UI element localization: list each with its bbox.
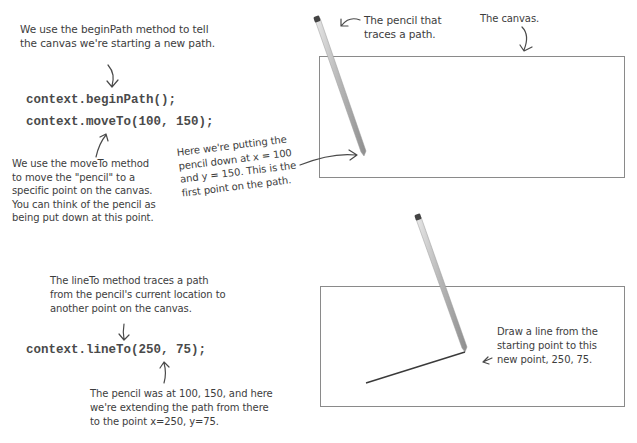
- pencil-label: The pencil that traces a path.: [364, 13, 464, 41]
- canvas-top: [319, 56, 625, 178]
- canvas-label: The canvas.: [480, 12, 560, 26]
- arrow-down-icon: [119, 324, 129, 340]
- arrow-left-icon: [341, 19, 360, 26]
- code-line-to: context.lineTo(250, 75);: [26, 343, 206, 357]
- canvas-bottom: [320, 286, 625, 407]
- code-move-to: context.moveTo(100, 150);: [26, 115, 214, 129]
- arrow-down-icon: [520, 27, 532, 51]
- arrow-down-icon: [107, 65, 118, 87]
- code-begin-path: context.beginPath();: [26, 93, 176, 107]
- move-to-note: We use the moveTo method to move the "pe…: [12, 157, 182, 225]
- line-to-note: The lineTo method traces a path from the…: [50, 274, 290, 316]
- begin-path-note: We use the beginPath method to tell the …: [20, 22, 280, 50]
- putting-down-note: Here we're putting the pencil down at x …: [176, 129, 322, 200]
- arrow-up-icon: [96, 134, 108, 157]
- arrow-up-icon: [160, 362, 169, 383]
- extending-note: The pencil was at 100, 150, and here we'…: [90, 387, 330, 429]
